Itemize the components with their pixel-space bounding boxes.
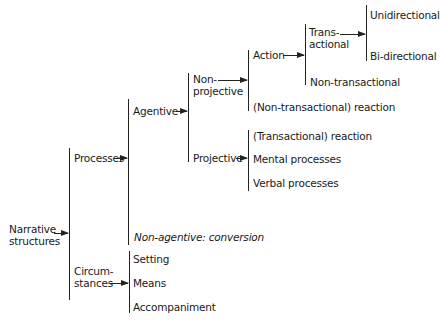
bracket-agentive	[188, 73, 189, 162]
node-narrative-line2: structures	[9, 235, 60, 247]
arrow-agentive	[176, 111, 187, 112]
node-transactional-line2: actional	[309, 38, 349, 50]
node-narrative-line1: Narrative	[9, 223, 60, 235]
node-transactional-reaction: (Transactional) reaction	[253, 130, 372, 142]
arrow-narrative	[54, 233, 68, 234]
arrow-projective	[236, 158, 247, 159]
bracket-narrative	[69, 148, 70, 300]
node-non-agentive-conversion: Non-agentive: conversion	[134, 231, 264, 243]
arrow-processes	[114, 158, 127, 159]
arrow-action	[283, 55, 304, 56]
arrow-circumstances	[110, 283, 128, 284]
node-mental-processes: Mental processes	[253, 153, 341, 165]
arrow-transactional	[340, 34, 365, 35]
node-non-projective: Non- projective	[193, 73, 243, 97]
node-bi-directional: Bi-directional	[370, 50, 436, 62]
node-circumstances: Circum- stances	[74, 265, 113, 289]
bracket-processes	[128, 99, 129, 245]
node-circumstances-line2: stances	[74, 277, 113, 289]
node-narrative-structures: Narrative structures	[9, 223, 60, 247]
bracket-projective	[248, 130, 249, 191]
node-action: Action	[253, 49, 285, 61]
bracket-transactional	[366, 5, 367, 61]
bracket-circumstances	[129, 251, 130, 313]
bracket-non-projective	[248, 50, 249, 111]
node-unidirectional: Unidirectional	[370, 9, 440, 21]
node-non-projective-line2: projective	[193, 85, 243, 97]
node-accompaniment: Accompaniment	[133, 301, 216, 313]
node-agentive: Agentive	[133, 105, 178, 117]
node-verbal-processes: Verbal processes	[253, 177, 339, 189]
node-transactional: Trans- actional	[309, 26, 349, 50]
node-non-transactional-reaction: (Non-transactional) reaction	[253, 101, 395, 113]
node-circumstances-line1: Circum-	[74, 265, 113, 277]
arrow-non-projective	[218, 80, 247, 81]
bracket-action	[305, 24, 306, 85]
node-transactional-line1: Trans-	[309, 26, 349, 38]
node-means: Means	[133, 277, 166, 289]
node-non-transactional: Non-transactional	[310, 76, 400, 88]
node-setting: Setting	[133, 253, 169, 265]
node-non-projective-line1: Non-	[193, 73, 243, 85]
